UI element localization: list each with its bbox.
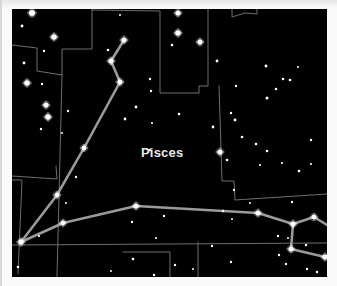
- star-icon: [281, 162, 283, 164]
- constellation-label: Pisces: [141, 145, 183, 160]
- star-icon: [297, 66, 299, 68]
- star-icon: [150, 90, 152, 92]
- star-icon: [306, 268, 308, 270]
- star-icon: [171, 44, 174, 47]
- star-icon: [38, 235, 40, 237]
- star-icon: [217, 149, 222, 154]
- star-icon: [29, 10, 35, 16]
- star-icon: [285, 263, 287, 265]
- boundary-line: [57, 75, 62, 277]
- star-icon: [51, 34, 57, 40]
- figure-star-icon: [288, 246, 293, 251]
- star-icon: [110, 270, 112, 272]
- figure-star-icon: [133, 203, 138, 208]
- star-icon: [275, 88, 278, 91]
- star-icon: [226, 159, 229, 162]
- star-icon: [40, 128, 42, 130]
- star-icon: [265, 65, 268, 68]
- star-icon: [135, 106, 138, 109]
- star-icon: [266, 97, 269, 100]
- star-icon: [298, 170, 301, 173]
- star-icon: [266, 150, 269, 153]
- figure-star-icon: [121, 37, 126, 42]
- star-icon: [277, 235, 279, 237]
- star-chart[interactable]: Pisces: [12, 9, 327, 277]
- constellation-boundaries: [12, 9, 327, 277]
- star-icon: [149, 78, 151, 80]
- figure-star-icon: [117, 79, 122, 84]
- figure-star-icon: [55, 193, 60, 198]
- star-icon: [234, 119, 237, 122]
- figure-star-icon: [18, 239, 24, 245]
- figure-line: [21, 206, 327, 242]
- figure-star-icon: [61, 221, 66, 226]
- boundary-line: [232, 9, 257, 17]
- star-icon: [241, 136, 244, 139]
- star-icon: [174, 264, 176, 266]
- star-icon: [212, 126, 215, 129]
- star-icon: [178, 113, 181, 116]
- star-icon: [211, 245, 213, 247]
- star-icon: [124, 118, 127, 121]
- star-icon: [43, 102, 48, 107]
- boundary-line: [12, 9, 92, 75]
- boundary-line: [12, 180, 22, 274]
- star-icon: [132, 258, 135, 261]
- star-icon: [310, 139, 312, 141]
- star-icon: [23, 62, 26, 65]
- star-icon: [131, 221, 133, 223]
- star-icon: [287, 237, 289, 239]
- star-icon: [233, 189, 235, 191]
- star-icon: [291, 201, 293, 203]
- star-icon: [235, 85, 237, 87]
- star-icon: [119, 14, 121, 16]
- star-icon: [216, 60, 219, 63]
- figure-star-icon: [108, 58, 113, 63]
- star-icon: [222, 210, 224, 212]
- figure-star-icon: [255, 210, 260, 215]
- star-icon: [61, 132, 63, 134]
- boundary-line: [219, 86, 327, 200]
- star-icon: [192, 268, 194, 270]
- star-icon: [45, 114, 51, 120]
- star-icon: [316, 271, 318, 273]
- star-icon: [249, 202, 251, 204]
- star-icon: [17, 266, 20, 269]
- star-icon: [175, 30, 181, 36]
- star-icon: [282, 78, 285, 81]
- boundary-line: [12, 166, 57, 179]
- star-icon: [305, 244, 307, 246]
- star-icon: [230, 112, 232, 114]
- star-icon: [310, 163, 312, 165]
- star-icon: [43, 50, 45, 52]
- star-icon: [65, 202, 67, 204]
- star-icon: [67, 110, 69, 112]
- star-icon: [41, 83, 43, 85]
- star-icon: [163, 215, 165, 217]
- star-icon: [255, 143, 258, 146]
- frame-edge: [0, 0, 2, 286]
- star-icon: [75, 176, 77, 178]
- figure-star-icon: [290, 221, 295, 226]
- star-icon: [175, 10, 180, 15]
- star-icon: [197, 39, 202, 44]
- star-icon: [151, 122, 153, 124]
- star-icon: [259, 164, 261, 166]
- boundary-line: [123, 252, 170, 277]
- star-icon: [21, 25, 24, 28]
- star-icon: [230, 261, 232, 263]
- figure-line: [291, 224, 325, 257]
- figure-star-icon: [312, 215, 317, 220]
- boundary-line: [12, 243, 327, 245]
- boundary-line: [92, 9, 208, 93]
- star-icon: [24, 80, 30, 86]
- star-icon: [289, 79, 292, 82]
- star-icon: [155, 237, 157, 239]
- star-icon: [278, 254, 280, 256]
- star-icon: [231, 218, 233, 220]
- figure-star-icon: [82, 146, 87, 151]
- star-map-canvas[interactable]: [12, 9, 327, 277]
- star-icon: [153, 274, 155, 276]
- star-icon: [107, 49, 110, 52]
